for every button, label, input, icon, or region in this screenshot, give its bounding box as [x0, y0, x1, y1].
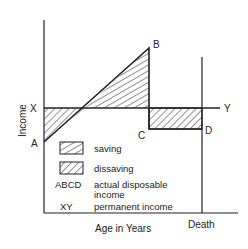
- label-c: C: [138, 130, 145, 141]
- label-a: A: [31, 138, 38, 149]
- label-d: D: [205, 125, 212, 136]
- legend-abcd-desc-2: income: [94, 189, 125, 200]
- legend-xy-key: XY: [60, 201, 73, 212]
- label-y: Y: [224, 103, 231, 114]
- legend-saving-label: saving: [94, 143, 121, 154]
- dissaving-region-retirement: [149, 108, 202, 129]
- legend-swatch-saving: [60, 142, 83, 154]
- permanent-income-diagram: X Y A B C D Income Age in Years Death sa…: [0, 0, 248, 249]
- y-axis-label: Income: [17, 104, 28, 137]
- label-b: B: [153, 39, 160, 50]
- legend-xy-desc: permanent income: [94, 201, 173, 212]
- legend-dissaving-label: dissaving: [94, 163, 134, 174]
- legend-swatch-dissaving: [60, 162, 83, 174]
- death-label: Death: [188, 219, 215, 230]
- legend-abcd-key: ABCD: [55, 179, 82, 190]
- label-x: X: [30, 103, 37, 114]
- x-axis-label: Age in Years: [95, 223, 151, 234]
